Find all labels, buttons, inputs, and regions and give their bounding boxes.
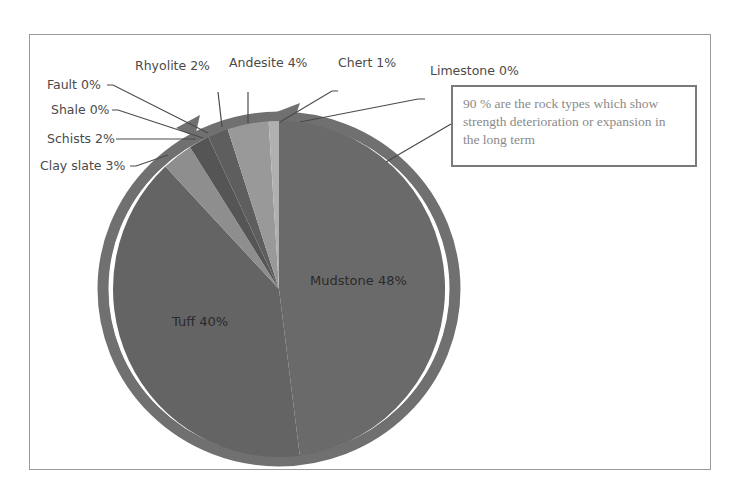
label-tuff: Tuff 40% xyxy=(171,314,228,329)
label-fault: Fault 0% xyxy=(47,77,101,92)
annotation-box: 90 % are the rock types which show stren… xyxy=(451,85,697,167)
label-rhyolite: Rhyolite 2% xyxy=(135,58,210,73)
label-shale: Shale 0% xyxy=(51,102,110,117)
label-chert: Chert 1% xyxy=(338,55,396,70)
label-mudstone: Mudstone 48% xyxy=(310,273,407,288)
label-schists: Schists 2% xyxy=(47,131,115,146)
label-andesite: Andesite 4% xyxy=(229,55,308,70)
pie-chart: Fault 0% Shale 0% Schists 2% Clay slate … xyxy=(0,0,743,500)
label-limestone: Limestone 0% xyxy=(430,63,519,78)
pie-slices xyxy=(113,121,445,457)
pie-slice-mudstone xyxy=(279,121,445,456)
label-clay-slate: Clay slate 3% xyxy=(40,158,125,173)
